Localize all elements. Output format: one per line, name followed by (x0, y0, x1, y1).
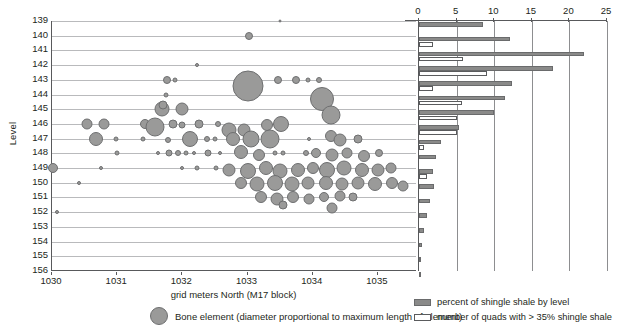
y-axis-title: Level (7, 109, 18, 159)
bone-element-bubble (176, 103, 189, 116)
bar-tick-label-20: 20 (563, 5, 574, 16)
bone-element-bubble (274, 76, 282, 84)
bone-element-bubble (335, 191, 346, 202)
bone-element-bubble (205, 150, 212, 157)
bar-percent-level-151 (419, 199, 430, 204)
bar-quads-level-147 (419, 145, 424, 150)
bone-element-bubble (311, 148, 321, 158)
level-tick-140: 140 (32, 30, 48, 40)
bone-element-bubble (316, 77, 322, 83)
level-tick-150: 150 (32, 177, 48, 187)
bone-element-bubble (287, 191, 299, 203)
bar-tick-label-0: 0 (415, 5, 420, 16)
bone-element-bubble (292, 76, 300, 84)
level-tick-151: 151 (32, 192, 48, 202)
bone-element-bubble (358, 150, 370, 162)
bar-percent-level-142 (419, 66, 553, 71)
bar-quads-level-149 (419, 174, 427, 179)
bar-quads-level-140 (419, 42, 433, 47)
x-tick-label-1030: 1030 (40, 275, 61, 286)
bar-quads-level-143 (419, 86, 433, 91)
bone-element-bubble (141, 136, 146, 141)
level-tick-156: 156 (32, 265, 48, 275)
level-tick-144: 144 (32, 89, 48, 99)
bone-element-bubble (218, 151, 222, 155)
legend-item-quads: number of quads with > 35% shingle shale (414, 312, 612, 322)
bone-element-bubble (279, 20, 282, 23)
bone-element-bubble (305, 77, 310, 82)
bar-quads-level-142 (419, 71, 487, 76)
bone-element-bubble (368, 177, 382, 191)
bar-percent-level-145 (419, 110, 494, 115)
bar-quads-level-146 (419, 130, 457, 135)
legend-item-percent: percent of shingle shale by level (414, 297, 612, 307)
bone-element-bubble (179, 122, 186, 129)
bone-element-bubble (334, 134, 347, 147)
bone-element-bubble (326, 148, 339, 161)
level-tick-141: 141 (32, 45, 48, 55)
bar-percent-level-154 (419, 243, 422, 248)
bone-element-bubble (319, 192, 329, 202)
bone-element-bubble (168, 119, 177, 128)
bone-element-bubble (215, 121, 221, 127)
x-axis-title: grid meters North (M17 block) (51, 289, 416, 300)
bone-element-bubble (232, 70, 263, 101)
bar-tick-label-10: 10 (488, 5, 499, 16)
bar-gridline-10 (494, 21, 495, 271)
bone-element-bubble (267, 175, 283, 191)
bone-element-bubble (163, 76, 171, 84)
bone-element-bubble (304, 193, 315, 204)
gridline-level-155 (52, 256, 416, 257)
bone-element-bubble (99, 118, 110, 129)
bone-element-bubble (194, 166, 199, 171)
bone-element-bubble (212, 136, 217, 141)
bar-axis-ticks: 0510152025 (418, 5, 606, 21)
bone-element-bubble (341, 148, 352, 159)
bar-percent-level-146 (419, 125, 459, 130)
bone-element-bubble (337, 161, 352, 176)
level-tick-139: 139 (32, 15, 48, 25)
bar-tick-label-25: 25 (601, 5, 612, 16)
bone-element-bubble (165, 137, 171, 143)
level-tick-149: 149 (32, 162, 48, 172)
bar-gridline-25 (607, 21, 608, 271)
x-tick-label-1033: 1033 (236, 275, 257, 286)
bone-element-bubble (223, 163, 236, 176)
bone-element-bubble (349, 193, 358, 202)
bar-percent-level-153 (419, 228, 424, 233)
gridline-level-141 (52, 50, 416, 51)
bone-element-bubble (319, 176, 333, 190)
bone-element-bubble (164, 92, 169, 97)
bone-element-bubble (195, 63, 199, 67)
bar-tick-label-15: 15 (526, 5, 537, 16)
figure-root: Level 1391401411421431441451461471481491… (0, 0, 630, 336)
bar-quads-level-145 (419, 116, 457, 121)
bone-element-bubble (77, 181, 81, 185)
gridline-level-151 (52, 197, 416, 198)
bone-element-bubble (145, 117, 164, 136)
bar-percent-level-148 (419, 155, 436, 160)
bone-element-bubble (234, 145, 248, 159)
bone-element-bubble (279, 200, 288, 209)
bone-element-bubble (81, 118, 92, 129)
gridline-level-152 (52, 212, 416, 213)
bone-element-bubble (273, 116, 289, 132)
bone-element-bubble (113, 136, 118, 141)
bone-element-bubble (242, 130, 259, 147)
bone-element-bubble (194, 119, 203, 128)
bone-element-bubble (355, 163, 369, 177)
bone-element-bubble (158, 100, 167, 109)
bar-percent-level-149 (419, 169, 433, 174)
bone-element-bubble (184, 151, 189, 156)
bone-element-bubble (115, 151, 120, 156)
bone-element-bubble (397, 180, 408, 191)
bone-element-bubble (182, 131, 198, 147)
level-tick-143: 143 (32, 74, 48, 84)
gridline-level-145 (52, 109, 416, 110)
bone-element-bubble (385, 163, 396, 174)
bone-element-bubble (180, 166, 184, 170)
x-tick-label-1031: 1031 (106, 275, 127, 286)
level-tick-145: 145 (32, 103, 48, 113)
bone-element-bubble (301, 176, 314, 189)
bar-tick-label-5: 5 (453, 5, 458, 16)
